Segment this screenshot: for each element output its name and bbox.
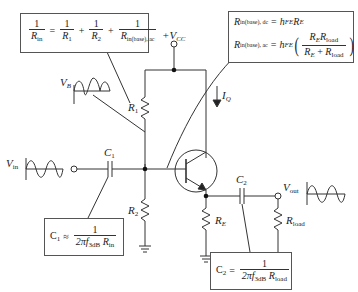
vout-terminal (275, 193, 281, 199)
vcc-label: +VCC (162, 30, 186, 43)
rload-label: Rload (286, 215, 305, 228)
r2-label: R2 (128, 205, 138, 218)
c1-equation-box: C1 ≈ 12πf3dB Rin (44, 218, 124, 256)
re-resistor (202, 208, 210, 230)
emitter-node (204, 194, 209, 199)
vout-label: Vout (283, 182, 299, 195)
c2-label: C2 (236, 174, 247, 187)
c2-equation: C2 = 12πf3dB Rload (216, 258, 291, 283)
base-node (143, 167, 148, 172)
iq-label: IQ (222, 90, 231, 103)
vb-label: VB (60, 77, 71, 90)
c1-label: C1 (104, 147, 115, 160)
re-label: RE (215, 215, 226, 228)
c2-equation-box: C2 = 12πf3dB Rload (210, 252, 292, 290)
vin-label: Vin (6, 158, 18, 171)
rload-resistor (274, 208, 282, 230)
r2-resistor (141, 199, 149, 221)
amplifier-diagram: +VCC VB Vin Vout R1 R2 RE Rload C1 C2 IQ… (0, 0, 358, 292)
rin-callout-line (107, 52, 130, 103)
transistor-body (175, 150, 217, 192)
rin-equation: 1Rin = 1R1 + 1R2 + 1Rin(base), ac (27, 18, 158, 43)
vin-terminal (71, 166, 77, 172)
rbase-dc-equation: Rin(base), dc = hFE RE (234, 16, 304, 27)
rin-equation-box: 1Rin = 1R1 + 1R2 + 1Rin(base), ac (20, 13, 149, 53)
r1-resistor (141, 97, 149, 119)
c2-callout-line (242, 204, 250, 252)
vcc-node (172, 68, 177, 73)
rbase-ac-equation: Rin(base), ac = hFE ( RERload RE + Rload… (234, 31, 355, 59)
rbase-equation-box: Rin(base), dc = hFE RE Rin(base), ac = h… (228, 11, 354, 63)
c1-equation: C1 ≈ 12πf3dB Rin (50, 224, 118, 249)
c1-callout-line (88, 177, 108, 218)
r1-label: R1 (128, 102, 138, 115)
